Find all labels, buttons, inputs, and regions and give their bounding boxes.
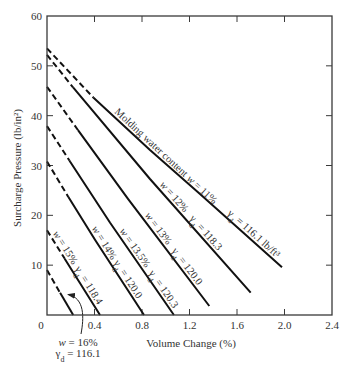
y-axis-title: Surcharge Pressure (lb/in²) (11, 109, 24, 227)
extrapolated-dashed-segment (47, 126, 70, 161)
x-tick-label: 1.6 (230, 319, 244, 331)
series-label-dry-unit-weight: γd = 118.3 (184, 212, 225, 255)
y-tick-label: 50 (31, 60, 43, 72)
series-label-water-content: w = 13% (143, 210, 175, 247)
series-label-dry-unit-weight: γd = 118.4 (69, 263, 106, 309)
annotation-arrow-icon (68, 295, 83, 335)
series-labels: Molding water content w = 11%γd = 116.1 … (51, 106, 283, 312)
series-label-water-content: w = 13.5% (118, 226, 153, 270)
y-tick-label: 20 (31, 209, 43, 221)
y-tick-label: 30 (31, 160, 43, 172)
extrapolated-dashed-segment (47, 48, 93, 97)
svg-text:w = 13.5%: w = 13.5% (118, 226, 153, 270)
series-15pct (47, 230, 100, 315)
svg-text:w = 12%: w = 12% (158, 179, 191, 214)
svg-text:γd = 120.0: γd = 120.0 (166, 245, 205, 290)
x-tick-label: 2.0 (278, 319, 292, 331)
extrapolated-dashed-segment (47, 270, 60, 293)
y-tick-label: 10 (31, 259, 43, 271)
origin-label: 0 (38, 319, 44, 331)
y-tick-label: 60 (31, 10, 43, 22)
svg-text:γd = 118.4: γd = 118.4 (69, 263, 106, 309)
svg-text:γd = 120.3: γd = 120.3 (143, 267, 181, 312)
svg-text:w = 13%: w = 13% (143, 210, 175, 247)
y-tick-label: 40 (31, 110, 43, 122)
svg-text:γd = 118.3: γd = 118.3 (184, 212, 225, 255)
extrapolated-dashed-segment (47, 87, 78, 130)
x-tick-label: 2.4 (325, 319, 339, 331)
chart-canvas: 0.40.81.21.62.02.40102030405060 Molding … (0, 0, 352, 372)
extrapolated-dashed-segment (47, 162, 68, 198)
x-tick-label: 0.8 (135, 319, 149, 331)
svg-text:γd = 116.1 lb/ft³: γd = 116.1 lb/ft³ (222, 207, 283, 263)
x-tick-label: 1.2 (183, 319, 197, 331)
series-label-water-content: w = 12% (158, 179, 191, 214)
series-16pct (47, 270, 73, 315)
measured-solid-segment (60, 293, 73, 315)
annotation-text: γd = 116.1 (55, 347, 101, 364)
series-label-dry-unit-weight: γd = 116.1 lb/ft³ (222, 207, 283, 263)
x-axis-title: Volume Change (%) (146, 337, 236, 350)
series-label-dry-unit-weight: γd = 120.3 (143, 267, 181, 312)
series-label-dry-unit-weight: γd = 120.0 (166, 245, 205, 290)
x-tick-label: 0.4 (88, 319, 102, 331)
